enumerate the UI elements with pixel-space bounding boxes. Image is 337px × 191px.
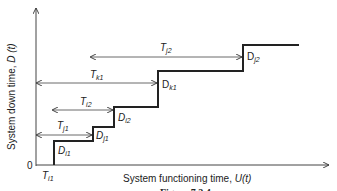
label-tk1: Tk1 xyxy=(90,69,104,81)
label-dj1: Dj1 xyxy=(96,130,109,143)
label-ti2: Ti2 xyxy=(80,96,92,108)
label-dk1: Dk1 xyxy=(162,79,177,91)
label-di1: Di1 xyxy=(58,145,71,157)
label-di2: Di2 xyxy=(118,112,131,124)
x-axis-label: System functioning time, U(t) xyxy=(123,173,251,184)
label-tj1: Tj1 xyxy=(57,120,69,133)
step-function-diagram: System down time, D (t) System functioni… xyxy=(0,0,337,191)
label-ti1: Ti1 xyxy=(42,170,54,182)
label-tj2: Tj2 xyxy=(160,42,172,55)
y-axis-label: System down time, D (t) xyxy=(6,43,17,150)
figure-caption: Figure 7.2.4 xyxy=(160,187,211,191)
origin-label: 0 xyxy=(27,160,33,171)
label-dj2: Dj2 xyxy=(247,51,260,64)
